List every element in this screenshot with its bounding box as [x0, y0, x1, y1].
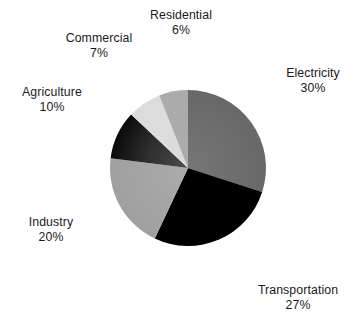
slice-label-industry: Industry 20% [8, 215, 94, 244]
slice-label-electricity: Electricity 30% [272, 66, 354, 95]
slice-label-commercial-value: 7% [47, 46, 151, 61]
slice-label-agriculture-value: 10% [2, 100, 102, 115]
slice-label-electricity-name: Electricity [272, 66, 354, 81]
slice-label-industry-value: 20% [8, 230, 94, 245]
slice-label-transportation-name: Transportation [243, 283, 353, 298]
slice-label-commercial-name: Commercial [47, 31, 151, 46]
slice-label-agriculture: Agriculture 10% [2, 85, 102, 114]
slice-label-residential-name: Residential [131, 8, 231, 23]
slice-label-transportation: Transportation 27% [243, 283, 353, 312]
slice-label-industry-name: Industry [8, 215, 94, 230]
slice-label-transportation-value: 27% [243, 298, 353, 313]
pie-chart: Residential 6% Commercial 7% Agriculture… [0, 0, 354, 327]
slice-label-commercial: Commercial 7% [47, 31, 151, 60]
slice-label-agriculture-name: Agriculture [2, 85, 102, 100]
slice-label-electricity-value: 30% [272, 81, 354, 96]
